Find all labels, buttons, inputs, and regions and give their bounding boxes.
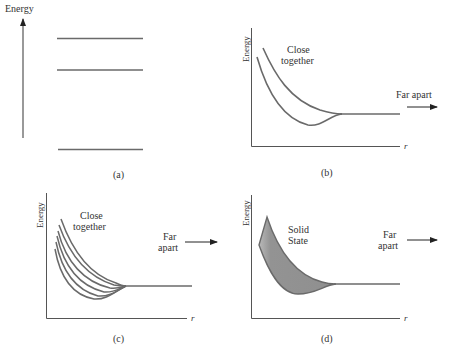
close-together-label-line2: together <box>73 221 106 232</box>
panel-d: Energy r Solid State Far apart (d) <box>241 195 437 345</box>
x-axis-label: r <box>191 313 195 323</box>
panel-a: Energy (a) <box>5 3 143 181</box>
y-axis-label: Energy <box>35 202 45 228</box>
close-together-label-line2: together <box>281 55 314 66</box>
y-axis-label: Energy <box>241 36 251 62</box>
close-together-label-line1: Close <box>80 210 103 221</box>
state-label-line2: State <box>288 235 309 246</box>
curve-3 <box>58 231 126 288</box>
curve-6 <box>55 249 126 299</box>
y-axis-label: Energy <box>241 200 251 226</box>
far-apart-label: Far apart <box>396 89 432 100</box>
panel-c: Energy r Close together Far apart (c) <box>35 193 217 345</box>
energy-band-figure: Energy (a) Energy r Close together Far a… <box>0 0 452 348</box>
curve-2 <box>59 225 126 286</box>
apart-label-line2: apart <box>378 240 398 251</box>
far-label-line1: Far <box>163 231 177 242</box>
panel-caption-d: (d) <box>321 333 333 345</box>
x-axis-label: r <box>404 313 408 323</box>
apart-label-line2: apart <box>158 242 178 253</box>
panel-caption-c: (c) <box>113 333 124 345</box>
lower-energy-curve <box>257 57 342 125</box>
far-label-line1: Far <box>383 229 397 240</box>
panel-caption-b: (b) <box>321 167 333 179</box>
close-together-label-line1: Close <box>287 44 310 55</box>
panel-caption-a: (a) <box>113 169 124 181</box>
solid-label-line1: Solid <box>288 224 309 235</box>
energy-axis-label: Energy <box>5 3 34 14</box>
x-axis-label: r <box>404 141 408 151</box>
axes <box>252 28 401 147</box>
panel-b: Energy r Close together Far apart (b) <box>241 28 437 179</box>
